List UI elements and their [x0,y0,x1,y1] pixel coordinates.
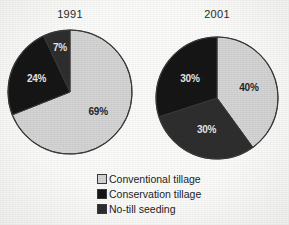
chart-legend: Conventional tillageConservation tillage… [97,172,257,217]
pie-slice-label: 30% [197,124,217,135]
legend-item[interactable]: Conventional tillage [97,172,257,186]
figure-root: 1991 2001 69%24%7% 40%30%30% Conventiona… [0,0,289,225]
pie-slice-label: 7% [53,42,67,53]
legend-item[interactable]: No-till seeding [97,202,257,216]
legend-item-label: Conservation tillage [109,188,201,200]
pie-slice-label: 24% [27,73,47,84]
legend-swatch-no-till [97,204,107,214]
pie-slice-label: 69% [88,106,108,117]
legend-item-label: Conventional tillage [109,173,201,185]
pie-slice-label: 40% [239,82,259,93]
legend-swatch-conservation [97,189,107,199]
pie-title-2001: 2001 [181,8,253,20]
pie-chart-1991: 69%24%7% [6,28,134,156]
legend-item[interactable]: Conservation tillage [97,187,257,201]
legend-swatch-conventional [97,174,107,184]
pie-slice-label: 30% [180,73,200,84]
pie-chart-2001: 40%30%30% [154,35,280,161]
pie-title-1991: 1991 [34,8,106,20]
legend-item-label: No-till seeding [109,203,176,215]
